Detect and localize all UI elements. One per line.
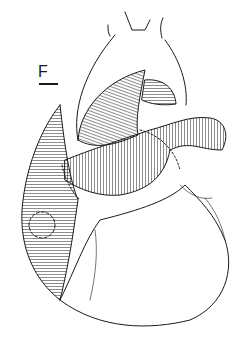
ventricle-outline bbox=[60, 185, 229, 326]
right-atrium-hatch bbox=[22, 105, 78, 300]
panel-label: F bbox=[38, 64, 48, 80]
heart-illustration: F bbox=[0, 0, 246, 349]
heart-drawing bbox=[0, 0, 246, 349]
pulmonary-hatch bbox=[78, 70, 145, 145]
panel-label-underline bbox=[39, 83, 58, 85]
